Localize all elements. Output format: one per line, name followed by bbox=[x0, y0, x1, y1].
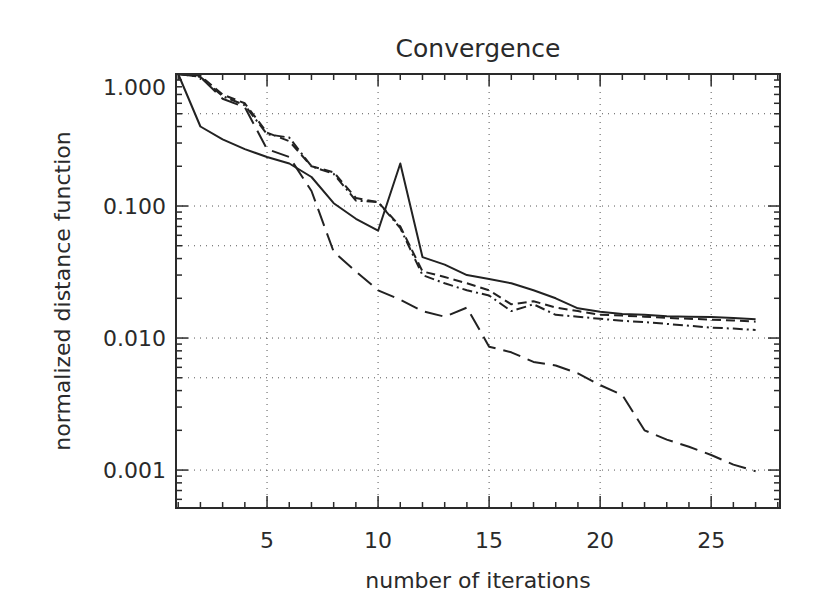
x-axis-label: number of iterations bbox=[365, 568, 590, 593]
x-tick-label: 20 bbox=[586, 528, 614, 553]
y-tick-labels: 1.0000.1000.0100.001 bbox=[103, 75, 166, 483]
grid-lines bbox=[176, 74, 780, 508]
y-tick-label: 1.000 bbox=[103, 75, 166, 100]
y-tick-label: 0.001 bbox=[103, 458, 166, 483]
x-tick-labels: 510152025 bbox=[260, 528, 725, 553]
series-short-dash bbox=[178, 74, 755, 322]
series-long-dash bbox=[178, 74, 755, 471]
data-series bbox=[178, 74, 755, 471]
convergence-chart: 510152025 1.0000.1000.0100.001 Convergen… bbox=[0, 0, 822, 615]
series-dash-dot bbox=[178, 74, 755, 330]
chart-title: Convergence bbox=[396, 34, 561, 63]
y-tick-label: 0.100 bbox=[103, 194, 166, 219]
y-tick-label: 0.010 bbox=[103, 326, 166, 351]
series-solid bbox=[178, 74, 755, 319]
x-tick-label: 10 bbox=[364, 528, 392, 553]
x-tick-label: 5 bbox=[260, 528, 274, 553]
y-axis-label: normalized distance function bbox=[50, 131, 75, 450]
x-tick-label: 25 bbox=[697, 528, 725, 553]
x-tick-label: 15 bbox=[475, 528, 503, 553]
